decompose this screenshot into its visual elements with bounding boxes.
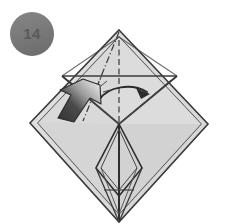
origami-diamond [30,30,208,222]
diagram-canvas: 14 [0,0,228,224]
origami-step-figure: 14 [0,0,228,224]
step-number-badge: 14 [10,12,54,56]
step-number-label: 14 [23,25,41,42]
